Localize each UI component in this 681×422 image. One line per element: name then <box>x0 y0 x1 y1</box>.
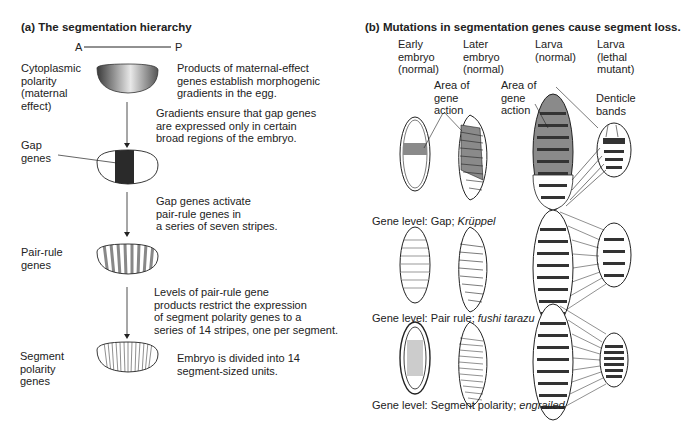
panel-a-title: (a) The segmentation hierarchy <box>21 21 192 33</box>
row-caption-gap: Gene level: Gap; Krüppel <box>372 215 496 227</box>
column-later-embryo: Later embryo (normal) <box>463 38 504 76</box>
transition-1: Gradients ensure that gap genes are expr… <box>156 107 316 145</box>
row-caption-pair-rule: Gene level: Pair rule; fushi tarazu <box>372 312 535 324</box>
segment-polarity-embryo <box>97 342 158 374</box>
row-pair-rule-drawings <box>400 210 631 326</box>
annotation-denticle-bands: Denticle bands <box>596 92 636 117</box>
annotation-area-of-gene-action-1: Area of gene action <box>434 79 469 117</box>
level-label-gap: Gap genes <box>21 139 51 164</box>
column-larva-normal: Larva (normal) <box>535 38 576 63</box>
level-desc-segment-polarity: Embryo is divided into 14 segment-sized … <box>177 352 300 377</box>
posterior-label: P <box>175 41 182 54</box>
column-early-embryo: Early embryo (normal) <box>398 38 439 76</box>
anterior-label: A <box>75 41 82 54</box>
level-label-segment-polarity: Segment polarity genes <box>20 350 64 388</box>
pair-rule-embryo <box>97 244 158 276</box>
gap-embryo <box>58 148 158 188</box>
transition-2: Gap genes activate pair-rule genes in a … <box>156 195 278 233</box>
level-label-pair-rule: Pair-rule genes <box>21 246 63 271</box>
maternal-embryo-gradient <box>97 64 158 93</box>
transition-3: Levels of pair-rule gene products restri… <box>154 286 338 336</box>
row-caption-segment-polarity: Gene level: Segment polarity; engrailed <box>372 399 565 411</box>
annotation-area-of-gene-action-2: Area of gene action <box>501 79 536 117</box>
level-label-maternal: Cytoplasmic polarity (maternal effect) <box>21 62 81 112</box>
column-larva-mutant: Larva (lethal mutant) <box>597 38 634 76</box>
level-desc-maternal: Products of maternal-effect genes establ… <box>177 62 320 100</box>
panel-b-title: (b) Mutations in segmentation genes caus… <box>365 21 681 33</box>
